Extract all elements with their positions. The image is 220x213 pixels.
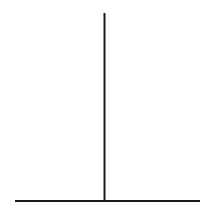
inverted-t-diagram xyxy=(0,0,220,213)
